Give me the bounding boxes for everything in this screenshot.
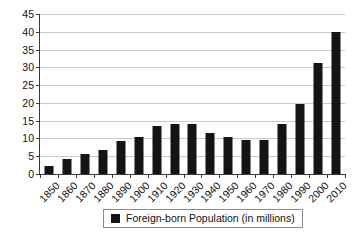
bar-slot <box>291 14 309 174</box>
y-tick-label: 30 <box>22 62 34 73</box>
x-tick-mark <box>255 174 256 178</box>
bar <box>116 141 125 174</box>
bar-slot <box>58 14 76 174</box>
x-tick-mark <box>327 174 328 178</box>
x-tick-mark <box>201 174 202 178</box>
x-tick-mark <box>291 174 292 178</box>
bar <box>188 124 197 174</box>
bar-chart-figure: 051015202530354045 185018601870188018901… <box>0 0 359 238</box>
x-tick-mark <box>309 174 310 178</box>
bar-slot <box>94 14 112 174</box>
plot-area: 051015202530354045 185018601870188018901… <box>39 14 345 175</box>
bar <box>44 166 53 174</box>
bars-layer <box>40 14 345 174</box>
bar <box>134 137 143 174</box>
bar <box>62 159 71 174</box>
x-tick-mark <box>112 174 113 178</box>
bar <box>206 133 215 174</box>
x-tick-mark <box>166 174 167 178</box>
y-tick-label: 40 <box>22 27 34 38</box>
x-tick-mark <box>273 174 274 178</box>
x-tick-mark <box>94 174 95 178</box>
bar <box>80 154 89 174</box>
chart-legend: Foreign-born Population (in millions) <box>103 209 303 228</box>
bar-slot <box>184 14 202 174</box>
y-tick-label: 20 <box>22 98 34 109</box>
x-tick-mark <box>148 174 149 178</box>
bar-slot <box>309 14 327 174</box>
x-tick-mark <box>58 174 59 178</box>
bar-slot <box>219 14 237 174</box>
x-tick-mark <box>219 174 220 178</box>
x-tick-mark <box>76 174 77 178</box>
x-tick-mark <box>184 174 185 178</box>
bar-slot <box>201 14 219 174</box>
y-tick-label: 5 <box>28 151 34 162</box>
bar <box>242 140 251 174</box>
bar <box>332 32 341 174</box>
bar <box>98 150 107 174</box>
bar-slot <box>327 14 345 174</box>
bar-slot <box>76 14 94 174</box>
bar-slot <box>273 14 291 174</box>
bar-slot <box>237 14 255 174</box>
y-tick-label: 25 <box>22 80 34 91</box>
bar <box>278 124 287 174</box>
x-tick-mark <box>40 174 41 178</box>
bar-slot <box>40 14 58 174</box>
bar-slot <box>148 14 166 174</box>
y-tick-label: 35 <box>22 44 34 55</box>
y-tick-label: 15 <box>22 115 34 126</box>
x-tick-mark <box>130 174 131 178</box>
x-tick-mark <box>237 174 238 178</box>
bar-slot <box>112 14 130 174</box>
gridline <box>40 174 345 175</box>
x-tick-mark <box>345 174 346 178</box>
bar-slot <box>130 14 148 174</box>
bar-slot <box>166 14 184 174</box>
bar <box>170 124 179 174</box>
x-tick-label-text: 2010 <box>324 180 348 204</box>
bar <box>224 137 233 174</box>
bar <box>260 140 269 174</box>
bar <box>152 126 161 174</box>
bar <box>314 63 323 174</box>
y-tick-label: 0 <box>28 169 34 180</box>
bar <box>296 104 305 174</box>
bar-slot <box>255 14 273 174</box>
legend-label: Foreign-born Population (in millions) <box>126 213 295 224</box>
legend-swatch-icon <box>111 214 120 223</box>
y-tick-label: 45 <box>22 9 34 20</box>
y-tick-label: 10 <box>22 133 34 144</box>
